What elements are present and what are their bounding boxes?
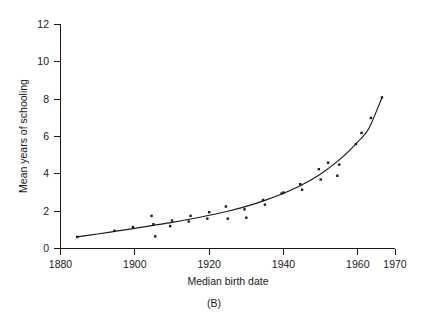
y-tick-label-2: 2 [43,205,49,217]
data-point [188,220,190,222]
data-point [225,205,227,207]
data-point [150,215,152,217]
data-point [171,219,173,221]
x-tick-label-1960: 1960 [346,258,370,270]
data-point-group [76,96,383,238]
y-tick-label-12: 12 [37,18,49,30]
schooling-scatter-chart: 0 2 4 6 8 10 12 1880 1900 1920 1940 1960… [0,0,428,318]
y-tick-label-4: 4 [43,167,49,179]
data-point [327,162,329,164]
data-point [189,215,191,217]
data-point [245,217,247,219]
data-point [113,230,115,232]
data-point [208,211,210,213]
data-point [154,235,156,237]
data-point [338,163,340,165]
data-point [360,132,362,134]
panel-caption: (B) [207,297,221,309]
x-tick-label-1920: 1920 [198,258,222,270]
data-point [381,96,383,98]
data-point [262,199,264,201]
x-axis-tick-labels: 1880 1900 1920 1940 1960 1970 [49,258,407,270]
data-point [243,208,245,210]
x-tick-label-1880: 1880 [49,258,73,270]
fitted-trend-curve [77,97,382,237]
data-point [206,217,208,219]
data-point [336,175,338,177]
x-axis-ticks [61,249,396,256]
x-tick-label-1970: 1970 [383,258,407,270]
y-tick-label-8: 8 [43,93,49,105]
y-tick-label-0: 0 [43,242,49,254]
data-point [76,236,78,238]
data-point [370,117,372,119]
data-point [264,203,266,205]
data-point [318,168,320,170]
data-point [227,217,229,219]
figure-panel-b: 0 2 4 6 8 10 12 1880 1900 1920 1940 1960… [0,0,428,318]
data-point [282,191,284,193]
x-tick-label-1900: 1900 [123,258,147,270]
y-axis-tick-labels: 0 2 4 6 8 10 12 [37,18,49,254]
data-point [355,143,357,145]
y-tick-label-10: 10 [37,55,49,67]
y-axis-ticks [54,25,61,249]
y-axis-title: Mean years of schooling [17,79,29,193]
data-point [299,183,301,185]
data-point [301,189,303,191]
x-tick-label-1940: 1940 [272,258,296,270]
data-point [152,223,154,225]
x-axis-title: Median birth date [187,275,268,287]
y-tick-label-6: 6 [43,130,49,142]
data-point [319,178,321,180]
data-point [169,225,171,227]
data-point [132,226,134,228]
